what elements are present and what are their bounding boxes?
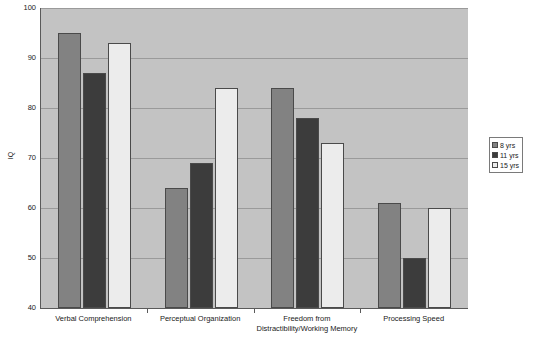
plot-area [40,8,468,309]
bar-group [361,8,468,308]
bar [321,143,344,308]
bar [296,118,319,308]
legend-label: 8 yrs [500,141,515,150]
bar-group [41,8,148,308]
bar-group [148,8,255,308]
bar [378,203,401,308]
legend-item: 11 yrs [492,150,519,160]
bar [108,43,131,308]
legend-swatch-icon [492,162,498,168]
bar [403,258,426,308]
bar [165,188,188,308]
y-axis-tick-labels: 100908070605040 [12,8,36,308]
bar [83,73,106,308]
legend-item: 8 yrs [492,140,519,150]
bar-chart: IQ 100908070605040 Verbal ComprehensionP… [0,0,534,347]
x-axis-category-labels: Verbal ComprehensionPerceptual Organizat… [40,311,467,347]
x-axis-tick-mark [147,309,148,313]
legend: 8 yrs11 yrs15 yrs [489,137,523,173]
legend-swatch-icon [492,142,498,148]
x-axis-category-label: Processing Speed [350,314,477,324]
y-axis-tick-label: 50 [12,254,36,262]
bar [58,33,81,308]
y-axis-tick-label: 100 [12,4,36,12]
x-axis-tick-mark [360,309,361,313]
y-axis-tick-label: 40 [12,304,36,312]
bar-group [255,8,362,308]
y-axis-tick-label: 60 [12,204,36,212]
legend-label: 11 yrs [500,151,519,160]
y-axis-tick-label: 70 [12,154,36,162]
bar [271,88,294,308]
y-axis-tick-label: 80 [12,104,36,112]
x-axis-tick-mark [254,309,255,313]
legend-label: 15 yrs [500,161,519,170]
bar [215,88,238,308]
bar [190,163,213,308]
legend-swatch-icon [492,152,498,158]
bar [428,208,451,308]
legend-item: 15 yrs [492,160,519,170]
y-axis-tick-label: 90 [12,54,36,62]
